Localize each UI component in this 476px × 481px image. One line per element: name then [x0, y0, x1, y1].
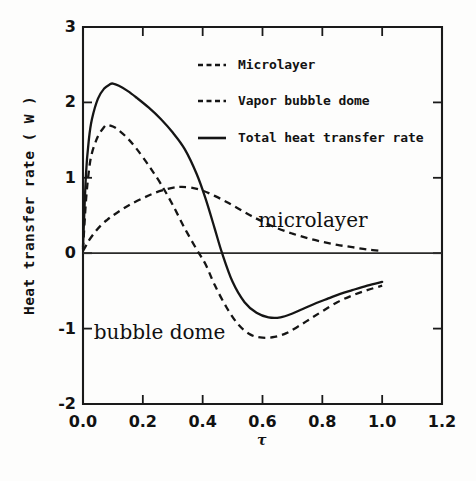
legend-label-0: Microlayer: [238, 57, 315, 72]
y-tick-label-1: 2: [50, 92, 76, 111]
x-tick-label-0: 0.0: [66, 412, 100, 431]
y-tick-label-3: 0: [50, 243, 76, 262]
y-axis-title-text: Heat transfer rate ( W ): [21, 96, 37, 315]
x-tick-label-5: 1.0: [365, 412, 399, 431]
y-tick-label-5: -2: [50, 394, 76, 413]
y-tick-label-4: -1: [50, 319, 76, 338]
annotation-0: microlayer: [258, 208, 367, 232]
y-tick-label-0: 3: [50, 17, 76, 36]
x-tick-label-2: 0.4: [186, 412, 220, 431]
y-tick-label-2: 1: [50, 168, 76, 187]
curve-series-2: [83, 83, 382, 317]
legend-label-2: Total heat transfer rate: [238, 130, 423, 145]
legend-label-1: Vapor bubble dome: [238, 93, 369, 108]
chart-page: Heat transfer rate ( W ) 0.00.20.40.60.8…: [0, 0, 476, 481]
x-tick-label-6: 1.2: [425, 412, 459, 431]
x-tick-label-4: 0.8: [305, 412, 339, 431]
annotation-1: bubble dome: [94, 320, 226, 344]
x-tick-label-1: 0.2: [126, 412, 160, 431]
y-axis-title: Heat transfer rate ( W ): [21, 96, 37, 315]
x-axis-title: τ: [257, 432, 266, 448]
x-tick-label-3: 0.6: [246, 412, 280, 431]
legend-line-samples: [198, 65, 226, 138]
